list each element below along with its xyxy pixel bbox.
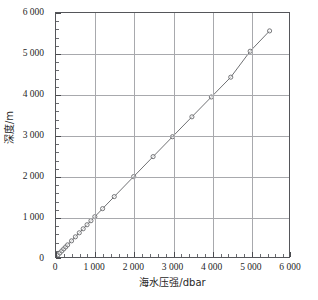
y-tick-label: 6 000 — [23, 7, 50, 17]
y-tick-label: 1 000 — [23, 212, 50, 222]
y-tick-minor — [56, 79, 59, 80]
y-tick-major — [56, 218, 61, 219]
x-tick-label: 4 000 — [201, 262, 222, 273]
x-tick-minor — [189, 254, 190, 257]
x-tick-minor — [205, 254, 206, 257]
x-tick-minor — [260, 254, 261, 257]
data-point-marker — [66, 243, 70, 247]
data-point-marker — [73, 235, 77, 239]
y-tick-major — [56, 177, 61, 178]
x-tick-major — [95, 252, 96, 257]
gridline-vertical — [95, 13, 96, 257]
x-tick-label: 5 000 — [240, 262, 261, 273]
x-tick-minor — [228, 254, 229, 257]
y-axis-title: 深度/m — [4, 98, 15, 158]
x-tick-minor — [181, 254, 182, 257]
x-tick-minor — [80, 254, 81, 257]
x-tick-minor — [283, 254, 284, 257]
x-tick-label: 1 000 — [83, 262, 104, 273]
y-tick-label: 5 000 — [23, 48, 50, 58]
gridline-vertical — [134, 13, 135, 257]
data-point-marker — [101, 207, 105, 211]
x-tick-minor — [150, 254, 151, 257]
x-tick-minor — [64, 254, 65, 257]
plot-area — [55, 12, 290, 258]
y-tick-major — [56, 258, 61, 259]
x-tick-major — [252, 252, 253, 257]
y-tick-label: 3 000 — [23, 130, 50, 140]
plot-inner — [56, 13, 289, 257]
data-point-marker — [112, 195, 116, 199]
x-tick-label: 0 — [53, 262, 58, 273]
gridline-horizontal — [56, 136, 289, 137]
y-tick-minor — [56, 70, 59, 71]
y-tick-minor — [56, 193, 59, 194]
y-tick-minor — [56, 62, 59, 63]
data-point-marker — [89, 219, 93, 223]
y-tick-minor — [56, 243, 59, 244]
x-tick-minor — [103, 254, 104, 257]
x-axis-title: 海水压强/dbar — [55, 277, 290, 289]
data-point-marker — [190, 115, 194, 119]
y-tick-minor — [56, 120, 59, 121]
y-tick-minor — [56, 169, 59, 170]
x-tick-minor — [197, 254, 198, 257]
x-tick-minor — [127, 254, 128, 257]
data-point-marker — [268, 29, 272, 33]
data-point-marker — [229, 75, 233, 79]
gridline-horizontal — [56, 95, 289, 96]
y-tick-label: 2 000 — [23, 171, 50, 181]
y-tick-minor — [56, 185, 59, 186]
x-tick-label: 2 000 — [123, 262, 144, 273]
y-tick-minor — [56, 38, 59, 39]
y-tick-minor — [56, 161, 59, 162]
data-point-marker — [81, 227, 85, 231]
x-tick-major — [56, 252, 57, 257]
x-tick-major — [290, 252, 291, 257]
y-tick-major — [56, 13, 61, 14]
x-tick-minor — [268, 254, 269, 257]
x-tick-minor — [158, 254, 159, 257]
x-tick-minor — [236, 254, 237, 257]
y-tick-minor — [56, 46, 59, 47]
data-point-marker — [151, 155, 155, 159]
data-point-marker — [85, 223, 89, 227]
y-tick-minor — [56, 111, 59, 112]
x-tick-label: 3 000 — [162, 262, 183, 273]
x-tick-minor — [72, 254, 73, 257]
y-tick-minor — [56, 128, 59, 129]
data-point-marker — [77, 231, 81, 235]
x-tick-minor — [221, 254, 222, 257]
y-tick-label: 0 — [39, 253, 50, 263]
x-tick-major — [174, 252, 175, 257]
gridline-horizontal — [56, 218, 289, 219]
y-tick-major — [56, 54, 61, 55]
x-axis-tick-labels: 01 0002 0003 0004 0005 0006 000 — [55, 262, 290, 276]
gridline-vertical — [213, 13, 214, 257]
gridline-vertical — [174, 13, 175, 257]
y-tick-minor — [56, 234, 59, 235]
gridline-horizontal — [56, 177, 289, 178]
y-tick-minor — [56, 152, 59, 153]
data-series-layer — [56, 13, 289, 257]
x-tick-minor — [119, 254, 120, 257]
x-tick-minor — [87, 254, 88, 257]
y-tick-minor — [56, 226, 59, 227]
y-tick-major — [56, 95, 61, 96]
y-tick-major — [56, 136, 61, 137]
gridline-horizontal — [56, 54, 289, 55]
x-tick-minor — [166, 254, 167, 257]
y-tick-minor — [56, 29, 59, 30]
x-tick-major — [213, 252, 214, 257]
y-tick-minor — [56, 87, 59, 88]
x-tick-minor — [142, 254, 143, 257]
data-point-marker — [69, 239, 73, 243]
x-tick-label: 6 000 — [279, 262, 300, 273]
y-tick-minor — [56, 21, 59, 22]
x-tick-minor — [244, 254, 245, 257]
y-tick-minor — [56, 210, 59, 211]
chart-figure: 01 0002 0003 0004 0005 0006 000 01 0002 … — [0, 0, 318, 300]
x-tick-major — [134, 252, 135, 257]
y-tick-minor — [56, 202, 59, 203]
y-tick-label: 4 000 — [23, 89, 50, 99]
